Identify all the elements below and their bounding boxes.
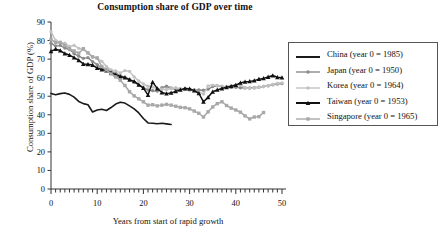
data-point	[174, 105, 177, 108]
x-tick-label: 30	[185, 199, 193, 208]
data-point	[119, 79, 122, 82]
data-point	[77, 47, 80, 50]
data-point	[77, 54, 80, 57]
data-point	[160, 103, 163, 106]
data-point	[132, 75, 135, 78]
data-point	[179, 106, 182, 109]
data-point	[211, 83, 214, 86]
legend-key-line-circle-icon	[294, 80, 322, 92]
data-point	[243, 114, 246, 117]
x-tick-label: 20	[139, 199, 147, 208]
data-point	[206, 84, 209, 87]
series-china	[51, 93, 171, 124]
data-point	[266, 84, 269, 87]
data-point	[169, 103, 172, 106]
data-point	[105, 68, 108, 71]
chart-figure: Consumption share of GDP over time 01020…	[0, 0, 446, 238]
data-point	[248, 87, 251, 90]
data-point	[151, 89, 154, 92]
y-tick-label: 30	[37, 129, 45, 138]
data-point	[174, 86, 177, 89]
data-point	[193, 109, 196, 112]
data-point	[165, 103, 168, 106]
data-point	[165, 85, 168, 88]
data-point	[137, 97, 140, 100]
data-point	[197, 112, 200, 115]
y-axis-title: Consumption share of GDP (%)	[25, 12, 35, 182]
legend-key-line-triangle-icon	[294, 95, 322, 107]
legend-label: Taiwan (year 0 = 1953)	[327, 97, 408, 106]
data-point	[216, 102, 219, 105]
legend-item-japan[interactable]: Japan (year 0 = 1950)	[294, 63, 432, 79]
series-line	[51, 93, 171, 124]
data-point	[137, 79, 140, 82]
data-point	[151, 103, 154, 106]
data-point	[142, 100, 145, 103]
data-point	[72, 44, 75, 47]
legend-label: Singapore (year 0 = 1965)	[327, 112, 417, 121]
data-point	[128, 90, 131, 93]
x-tick-label: 50	[278, 199, 286, 208]
y-tick-label: 60	[37, 74, 45, 83]
data-point	[220, 100, 223, 103]
data-point	[156, 104, 159, 107]
data-point	[239, 86, 242, 89]
legend-label: Japan (year 0 = 1950)	[327, 66, 402, 75]
data-point	[100, 60, 103, 63]
data-point	[49, 30, 52, 33]
data-point	[165, 88, 168, 91]
data-point	[123, 84, 126, 87]
y-tick-label: 0	[41, 185, 45, 194]
x-tick-label: 40	[232, 199, 240, 208]
data-point	[105, 65, 108, 68]
chart-legend: China (year 0 = 1985)Japan (year 0 = 195…	[288, 42, 438, 126]
data-point	[234, 108, 237, 111]
y-tick-label: 40	[37, 111, 45, 120]
data-point	[239, 110, 242, 113]
legend-key-line-square-icon	[294, 111, 322, 123]
data-point	[59, 41, 62, 44]
data-point	[77, 51, 80, 54]
data-point	[72, 49, 75, 52]
data-point	[54, 41, 57, 44]
data-point	[183, 106, 186, 109]
data-point	[243, 86, 246, 89]
legend-item-taiwan[interactable]: Taiwan (year 0 = 1953)	[294, 94, 432, 110]
data-point	[202, 92, 205, 95]
data-point	[59, 44, 62, 47]
series-singapore	[49, 38, 265, 121]
legend-item-korea[interactable]: Korea (year 0 = 1964)	[294, 78, 432, 94]
data-point	[188, 107, 191, 110]
x-tick-label: 0	[49, 199, 53, 208]
data-point	[206, 110, 209, 113]
legend-item-singapore[interactable]: Singapore (year 0 = 1965)	[294, 109, 432, 125]
y-tick-label: 50	[37, 92, 45, 101]
y-tick-label: 70	[37, 55, 45, 64]
data-point	[119, 71, 122, 74]
data-point	[257, 115, 260, 118]
x-tick-label: 10	[93, 199, 101, 208]
data-point	[142, 82, 145, 85]
data-point	[202, 115, 205, 118]
data-point	[49, 38, 52, 41]
data-point	[146, 85, 149, 88]
data-point	[68, 47, 71, 50]
data-point	[82, 47, 85, 50]
legend-item-china[interactable]: China (year 0 = 1985)	[294, 47, 432, 63]
data-point	[128, 70, 131, 73]
data-point	[306, 71, 309, 74]
data-point	[86, 56, 89, 59]
data-point	[114, 75, 117, 78]
data-point	[216, 84, 219, 87]
y-tick-label: 80	[37, 37, 45, 46]
data-point	[225, 104, 228, 107]
series-taiwan	[49, 47, 285, 104]
data-point	[271, 83, 274, 86]
y-tick-label: 20	[37, 148, 45, 157]
data-point	[49, 42, 52, 45]
data-point	[253, 115, 256, 118]
legend-label: Korea (year 0 = 1964)	[327, 81, 403, 90]
data-point	[82, 57, 85, 60]
data-point	[63, 44, 66, 47]
data-point	[229, 106, 232, 109]
